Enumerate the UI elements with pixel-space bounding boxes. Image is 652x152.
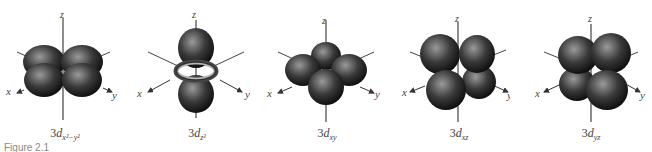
orbital-dyz: z x y 3dyz bbox=[510, 0, 640, 152]
x-label: x bbox=[136, 87, 142, 99]
orbital-label: 3dxy bbox=[262, 126, 392, 142]
orbital-label: 3dyz bbox=[526, 126, 652, 142]
x-label: x bbox=[401, 86, 407, 98]
x-label: x bbox=[5, 85, 11, 97]
z-label: z bbox=[191, 9, 196, 20]
x-axis bbox=[278, 87, 292, 93]
x-axis bbox=[148, 80, 170, 92]
y-label: y bbox=[639, 89, 645, 101]
x-axis bbox=[410, 86, 425, 92]
orbital-label: 3dxz bbox=[394, 126, 524, 142]
x-axis bbox=[17, 90, 24, 93]
orbital-label: 3dz² bbox=[132, 126, 262, 142]
orbital-dxz: z x y 3dxz bbox=[380, 0, 510, 152]
y-axis bbox=[220, 80, 242, 92]
orbital-dx2-y2: z x y 3dx²−y² bbox=[0, 0, 130, 152]
orbital-dz2: z x y 3dz² bbox=[120, 0, 250, 152]
y-label: y bbox=[111, 89, 117, 101]
y-axis bbox=[360, 87, 374, 93]
z-label: z bbox=[454, 13, 459, 24]
orbital-dxy: z x y 3dxy bbox=[250, 0, 380, 152]
figure-caption: Figure 2.1 bbox=[4, 142, 49, 152]
x-label: x bbox=[534, 87, 540, 99]
y-axis bbox=[103, 88, 112, 92]
orbital-label: 3dx²−y² bbox=[0, 126, 130, 142]
z-label: z bbox=[321, 15, 326, 26]
z-label: z bbox=[59, 9, 64, 20]
z-label: z bbox=[587, 13, 592, 24]
x-label: x bbox=[266, 87, 272, 99]
